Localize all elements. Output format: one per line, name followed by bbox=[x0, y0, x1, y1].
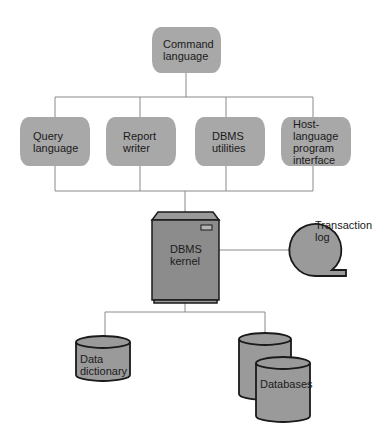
node-label: DBMS utilities bbox=[212, 130, 246, 154]
node-dbms-utilities: DBMS utilities bbox=[195, 117, 265, 166]
node-host-language-interface: Host- language program interface bbox=[281, 117, 351, 166]
node-data-dictionary-label: Data dictionary bbox=[80, 353, 127, 377]
node-label: Host- language program interface bbox=[293, 118, 338, 166]
node-databases-label: Databases bbox=[260, 378, 313, 390]
node-label: Query language bbox=[33, 130, 78, 154]
node-query-language: Query language bbox=[20, 117, 90, 166]
node-label: Command language bbox=[163, 38, 214, 62]
node-dbms-kernel-label: DBMS kernel bbox=[170, 243, 202, 267]
node-transaction-log-label: Transaction log bbox=[315, 219, 372, 243]
node-label: Report writer bbox=[123, 130, 156, 154]
node-command-language: Command language bbox=[152, 27, 221, 73]
node-report-writer: Report writer bbox=[106, 117, 176, 166]
